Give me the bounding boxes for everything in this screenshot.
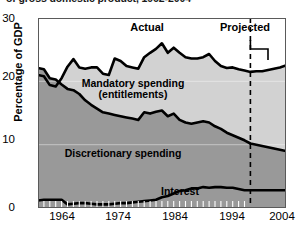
- annotation-mandatory-spending: Mandatory spending (entitlements): [58, 78, 208, 101]
- y-tick-20: 20: [0, 70, 15, 82]
- chart-title: of gross domestic product, 1962-2004: [6, 0, 302, 4]
- plot-area: [38, 18, 286, 208]
- x-tick-1994: 1994: [212, 210, 252, 222]
- annotation-mandatory-line2: (entitlements): [58, 89, 208, 100]
- y-tick-30: 30: [0, 12, 15, 24]
- x-tick-1964: 1964: [42, 210, 82, 222]
- x-tick-2004: 2004: [262, 210, 302, 222]
- x-tick-1974: 1974: [98, 210, 138, 222]
- annotation-projected: Projected: [208, 22, 282, 34]
- y-tick-10: 10: [0, 133, 15, 145]
- chart-svg: [38, 18, 286, 208]
- annotation-discretionary-spending: Discretionary spending: [48, 148, 198, 159]
- x-tick-1984: 1984: [155, 210, 195, 222]
- annotation-actual: Actual: [112, 22, 182, 34]
- y-tick-0: 0: [0, 201, 15, 213]
- annotation-interest: Interest: [148, 186, 212, 197]
